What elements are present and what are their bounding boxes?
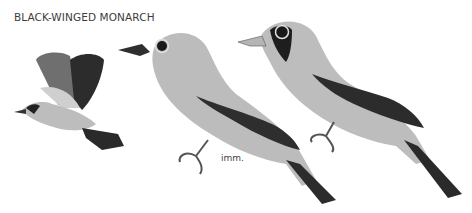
bird-adult-illustration	[238, 21, 462, 198]
bird-flying-illustration	[14, 53, 124, 150]
illustration	[0, 0, 472, 213]
immature-label: imm.	[221, 153, 244, 163]
